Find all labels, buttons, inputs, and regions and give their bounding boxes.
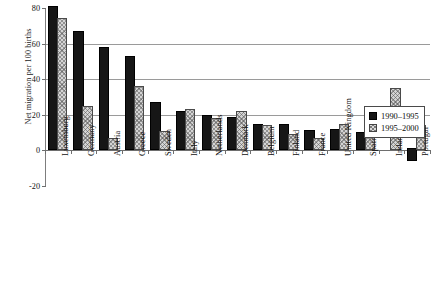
x-axis-category-label: Denmark (241, 125, 250, 157)
x-axis-tick-mark (353, 150, 354, 154)
x-axis-tick-mark (199, 150, 200, 154)
x-axis-tick-mark (122, 150, 123, 154)
x-axis-tick-mark (225, 150, 226, 154)
x-axis-tick-mark (250, 150, 251, 154)
y-axis-tick-mark (42, 79, 46, 80)
x-axis-tick-mark (71, 150, 72, 154)
gridline (45, 44, 430, 45)
x-axis-category-label: Spain (369, 137, 378, 157)
legend-item-1995-2000: 1995–2000 (369, 122, 419, 134)
y-axis-tick-mark (42, 115, 46, 116)
x-axis-category-label: Sweden (164, 129, 173, 156)
x-axis-tick-mark (302, 150, 303, 154)
x-axis-category-label: France (318, 133, 327, 156)
x-axis-tick-mark (404, 150, 405, 154)
x-axis-tick-mark (96, 150, 97, 154)
x-axis-tick-mark (430, 150, 431, 154)
bar (99, 47, 109, 150)
dark-square-icon (369, 112, 377, 120)
x-axis-category-label: Luxemburg (61, 117, 70, 157)
plot-area: 806040200-20LuxemburgGermanyAustriaGreec… (45, 8, 430, 186)
hatched-square-icon (369, 124, 377, 132)
legend-item-1990-1995: 1990–1995 (369, 110, 419, 122)
x-axis-category-label: Netherlands (215, 115, 224, 157)
x-axis-category-label: Italy (190, 141, 199, 157)
x-axis-category-label: Belgium (267, 127, 276, 157)
y-axis-tick-mark (42, 8, 46, 9)
x-axis-category-label: Finland (292, 130, 301, 156)
x-axis-category-label: United Kingdom (344, 98, 353, 156)
chart-figure: Net migration per 100 births 806040200-2… (0, 0, 444, 281)
x-axis-tick-mark (327, 150, 328, 154)
y-axis-tick-mark (42, 186, 46, 187)
y-axis-tick-mark (42, 44, 46, 45)
x-axis-category-label: Austria (113, 131, 122, 156)
y-axis-line (45, 8, 46, 186)
chart-legend: 1990–1995 1995–2000 (364, 106, 425, 138)
figure-caption (0, 272, 444, 281)
x-axis-category-label: Germany (87, 125, 96, 157)
legend-label-1995-2000: 1995–2000 (381, 124, 419, 133)
x-axis-tick-mark (276, 150, 277, 154)
legend-label-1990-1995: 1990–1995 (381, 112, 419, 121)
x-axis-category-label: Greece (138, 132, 147, 156)
x-axis-tick-mark (379, 150, 380, 154)
x-axis-tick-mark (173, 150, 174, 154)
x-axis-tick-mark (148, 150, 149, 154)
x-axis-tick-mark (45, 150, 46, 154)
